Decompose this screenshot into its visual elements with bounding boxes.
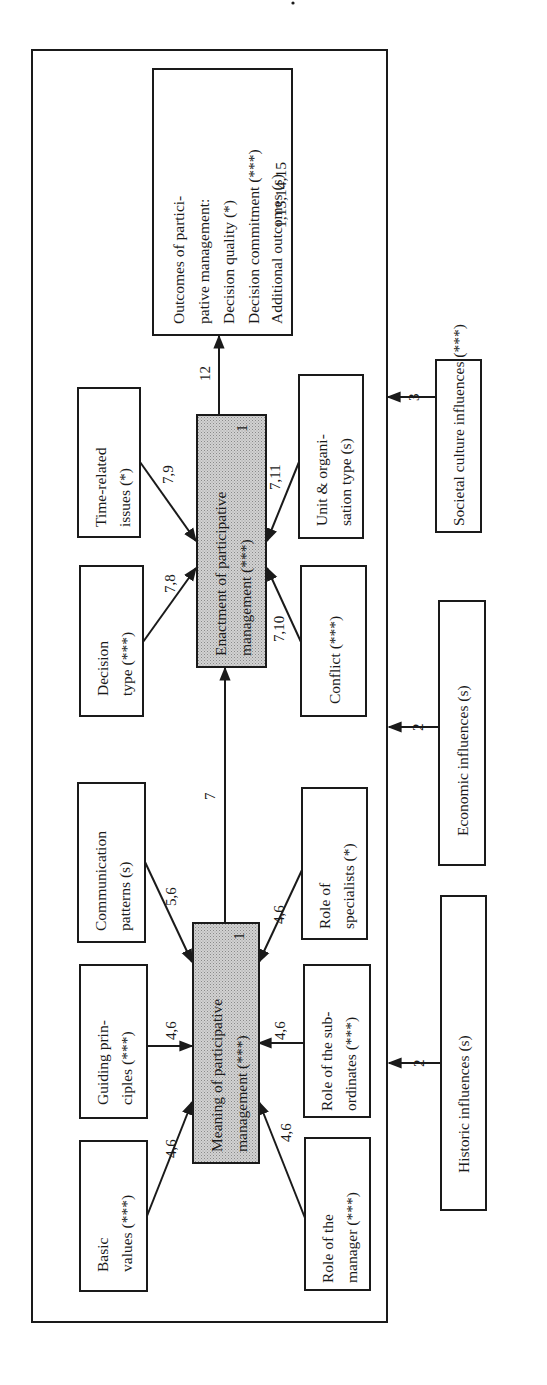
ref-decision-type: 7,8 <box>162 574 178 593</box>
ref-communication-patterns: 5,6 <box>163 887 179 906</box>
ref-basic-values: 4,6 <box>163 1139 179 1158</box>
enactment-line-2: management (***) <box>237 539 255 656</box>
meaning-line-1: Meaning of participative <box>208 999 225 1152</box>
enactment-node: Enactment of participative management (*… <box>197 415 266 667</box>
node-conflict: Conflict (***) <box>301 566 366 716</box>
svg-text:Historic influences (s): Historic influences (s) <box>455 1035 473 1173</box>
svg-text:Societal culture influences (*: Societal culture influences (***) <box>450 324 468 526</box>
node-societal-culture-influences: Societal culture influences (***) <box>436 324 481 532</box>
outcomes-line-3: Decision quality (*) <box>220 200 238 324</box>
participative-management-diagram: 4,6 4,6 5,6 4,6 4,6 4,6 7 7,8 7,9 7,10 7… <box>0 0 547 1385</box>
node-role-of-specialists: Role of specialists (*) <box>302 788 367 939</box>
node-decision-type: Decision type (***) <box>80 566 143 716</box>
meaning-ref: 1 <box>230 932 247 940</box>
meaning-node: Meaning of participative management (***… <box>193 923 259 1163</box>
ref-historic: 2 <box>411 1060 427 1068</box>
outcomes-line-4: Decision commitment (***) <box>245 149 263 324</box>
ref-time-related-issues: 7,9 <box>160 465 176 484</box>
node-communication-patterns: Communication patterns (s) <box>78 783 145 942</box>
link-basic-values <box>147 1102 192 1216</box>
node-role-of-manager: Role of the manager (***) <box>305 1138 370 1290</box>
node-historic-influences: Historic influences (s) <box>441 896 486 1210</box>
ref-conflict: 7,10 <box>271 616 287 642</box>
node-guiding-principles: Guiding prin- ciples (***) <box>80 965 147 1118</box>
ref-meaning-to-enactment: 7 <box>202 792 218 800</box>
ref-role-of-specialists: 4,6 <box>271 905 287 924</box>
outcomes-line-1: Outcomes of partici- <box>170 196 187 324</box>
enactment-ref: 1 <box>233 424 250 432</box>
page-mark <box>291 1 294 4</box>
outcomes-line-2: pative management: <box>195 199 212 324</box>
svg-text:Economic influences (s): Economic influences (s) <box>454 685 472 836</box>
ref-role-of-manager: 4,6 <box>278 1123 294 1142</box>
outcomes-ref: 1,13,14,15 <box>272 162 289 228</box>
link-role-of-manager <box>259 1102 305 1218</box>
ref-role-of-subordinates: 4,6 <box>272 1021 288 1040</box>
link-communication-patterns <box>145 862 192 962</box>
ref-economic: 2 <box>410 724 426 732</box>
ref-societal: 3 <box>406 394 422 402</box>
node-role-of-subordinates: Role of the sub- ordinates (***) <box>304 965 370 1117</box>
node-unit-organisation-type: Unit & organi- sation type (s) <box>299 375 363 538</box>
svg-text:Conflict (***): Conflict (***) <box>326 616 344 704</box>
node-basic-values: Basic values (***) <box>80 1141 147 1291</box>
outcomes-node: Outcomes of partici- pative management: … <box>153 69 292 335</box>
node-economic-influences: Economic influences (s) <box>439 601 485 865</box>
meaning-line-2: management (***) <box>233 1035 251 1152</box>
ref-guiding-principles: 4,6 <box>163 1021 179 1040</box>
ref-enactment-to-outcomes: 12 <box>197 366 213 381</box>
ref-unit-organisation-type: 7,11 <box>267 464 283 490</box>
enactment-line-1: Enactment of participative <box>212 491 229 656</box>
node-time-related-issues: Time-related issues (*) <box>78 388 140 537</box>
connector-links <box>140 336 441 1218</box>
